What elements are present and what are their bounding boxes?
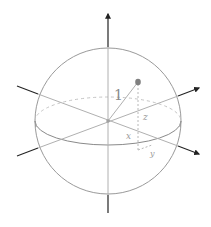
diagonal-down-axis-right xyxy=(178,146,199,154)
diagonal-down-axis-left xyxy=(17,86,38,94)
x-label: x xyxy=(126,131,131,141)
radius-label: 1 xyxy=(114,87,123,103)
z-label: z xyxy=(142,112,148,122)
y-label: y xyxy=(149,149,155,158)
origin-point xyxy=(106,119,110,123)
unit-sphere-diagram: 1 z x y xyxy=(0,0,211,227)
diagonal-up-axis-right xyxy=(178,88,199,96)
radius-line xyxy=(108,82,138,121)
diagonal-up-axis-left xyxy=(17,148,38,156)
sphere-point xyxy=(135,79,141,85)
